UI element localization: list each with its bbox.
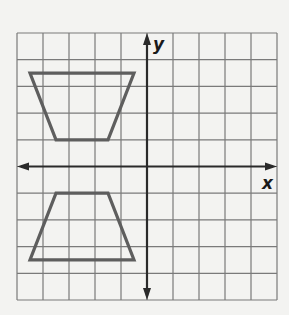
y-axis-down-arrow-icon <box>143 288 151 300</box>
y-axis-label: y <box>153 34 165 54</box>
trapezoid-lower <box>30 193 134 260</box>
trapezoid-upper <box>30 73 134 140</box>
coordinate-grid: x y <box>0 0 289 315</box>
y-axis-up-arrow-icon <box>143 33 151 45</box>
x-axis-left-arrow-icon <box>17 163 29 171</box>
x-axis-label: x <box>261 173 274 193</box>
x-axis-right-arrow-icon <box>265 163 277 171</box>
